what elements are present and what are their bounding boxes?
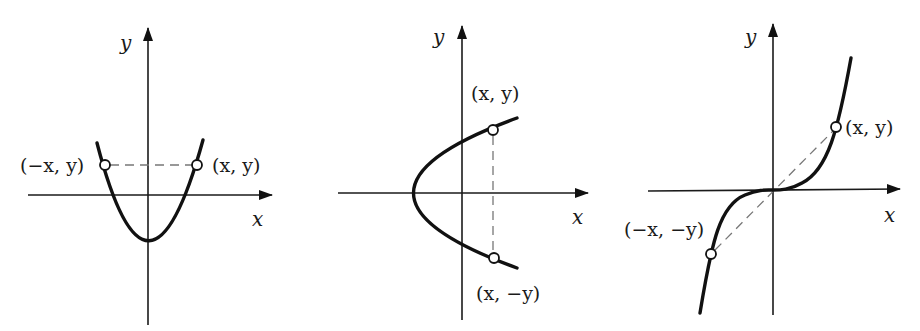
point-marker [831, 122, 841, 132]
point-label-x-y: (x, y) [471, 82, 519, 104]
point-label-x-y: (x, y) [212, 154, 260, 176]
point-marker [100, 160, 110, 170]
point-label-x-neg-y: (x, −y) [476, 282, 540, 304]
point-marker [706, 249, 716, 259]
x-axis-label: x [252, 207, 263, 231]
point-marker [489, 253, 499, 263]
cubic-curve [700, 58, 851, 313]
point-label-neg-x-y: (−x, y) [20, 154, 84, 176]
figure-x-axis-symmetry: y x (x, y) (x, −y) [338, 25, 588, 320]
y-axis-label: y [119, 31, 132, 55]
y-axis-label: y [432, 25, 445, 49]
x-axis-label: x [572, 205, 583, 229]
figure-odd-function: y x (x, y) (−x, −y) [624, 24, 900, 315]
y-axis-label: y [744, 25, 757, 49]
point-label-x-y: (x, y) [845, 116, 893, 138]
point-marker [192, 160, 202, 170]
point-label-neg-x-neg-y: (−x, −y) [624, 218, 704, 240]
point-marker [488, 125, 498, 135]
figure-even-function: y x (−x, y) (x, y) [20, 28, 272, 325]
x-axis-label: x [884, 203, 895, 227]
parabola-curve [97, 140, 203, 241]
symmetry-diagrams: y x (−x, y) (x, y) y x (x, y) (x, −y) y … [0, 0, 920, 331]
